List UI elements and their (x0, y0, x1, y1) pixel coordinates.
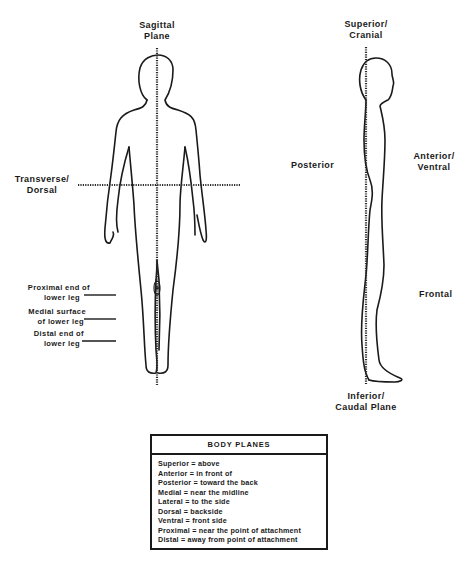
legend-item: Dorsal = backside (158, 507, 326, 517)
distal-end-label: Distal end of lower leg (10, 329, 84, 349)
legend-item: Posterior = toward the back (158, 478, 326, 488)
inferior-caudal-plane-label: Inferior/ Caudal Plane (326, 391, 406, 413)
sagittal-plane-label: Sagittal Plane (127, 20, 187, 42)
legend-item: Superior = above (158, 459, 326, 469)
transverse-plane-label: Transverse/ Dorsal (10, 174, 74, 196)
legend-item: Distal = away from point of attachment (158, 535, 326, 545)
legend-item: Ventral = front side (158, 516, 326, 526)
frontal-label: Frontal (419, 289, 452, 300)
legend-item: Medial = near the midline (158, 488, 326, 498)
posterior-label: Posterior (291, 160, 334, 171)
front-body-outline (105, 55, 207, 373)
anterior-ventral-label: Anterior/ Ventral (404, 151, 464, 173)
legend-title: BODY PLANES (152, 436, 326, 455)
legend-item: Lateral = to the side (158, 497, 326, 507)
superior-cranial-label: Superior/ Cranial (336, 19, 396, 41)
legend-list: Superior = above Anterior = in front of … (152, 455, 326, 545)
body-planes-legend: BODY PLANES Superior = above Anterior = … (150, 434, 328, 550)
plane-lines (78, 47, 366, 385)
legend-item: Proximal = near the point of attachment (158, 526, 326, 536)
proximal-end-label: Proximal end of lower leg (10, 283, 90, 303)
medial-surface-label: Medial surface of lower leg (10, 307, 86, 327)
legend-item: Anterior = in front of (158, 469, 326, 479)
